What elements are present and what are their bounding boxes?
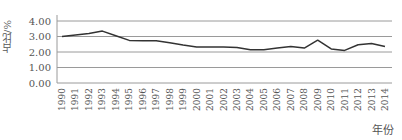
x-tick-label: 2000 xyxy=(192,88,202,111)
x-tick-label: 1991 xyxy=(70,88,80,111)
x-tick-label: 1998 xyxy=(165,88,175,111)
x-tick-label: 1999 xyxy=(178,88,188,111)
x-tick-label: 2002 xyxy=(219,88,229,111)
x-tick-label: 2014 xyxy=(380,88,390,111)
y-tick-label: 0.00 xyxy=(29,78,51,89)
x-axis-label: 年份 xyxy=(372,121,394,137)
x-tick-label: 1993 xyxy=(97,88,107,111)
x-tick-label: 1994 xyxy=(111,88,121,111)
x-tick-label: 1992 xyxy=(84,88,94,111)
x-tick-label: 2001 xyxy=(205,88,215,111)
y-tick-label: 4.00 xyxy=(29,16,51,27)
x-tick-label: 2006 xyxy=(272,88,282,111)
x-tick-label: 1997 xyxy=(151,88,161,111)
x-tick-label: 2012 xyxy=(353,88,363,111)
x-tick-label: 2011 xyxy=(340,88,350,111)
x-tick-label: 2010 xyxy=(326,88,336,111)
x-tick-label: 2003 xyxy=(232,88,242,111)
line-chart: 占比/% 0.001.002.003.004.00199019911992199… xyxy=(0,0,402,140)
plot-area: 0.001.002.003.004.0019901991199219931994… xyxy=(0,0,402,140)
x-tick-label: 2007 xyxy=(286,88,296,111)
x-tick-label: 2008 xyxy=(299,88,309,111)
x-tick-label: 2004 xyxy=(245,88,255,111)
x-tick-label: 2009 xyxy=(313,88,323,111)
y-tick-label: 2.00 xyxy=(29,47,51,58)
x-tick-label: 2005 xyxy=(259,88,269,111)
y-tick-label: 1.00 xyxy=(29,62,51,73)
x-tick-label: 1990 xyxy=(57,88,67,111)
x-tick-label: 1996 xyxy=(138,88,148,111)
x-tick-label: 1995 xyxy=(124,88,134,111)
series-line xyxy=(62,31,385,50)
y-tick-label: 3.00 xyxy=(29,31,51,42)
x-tick-label: 2013 xyxy=(367,88,377,111)
